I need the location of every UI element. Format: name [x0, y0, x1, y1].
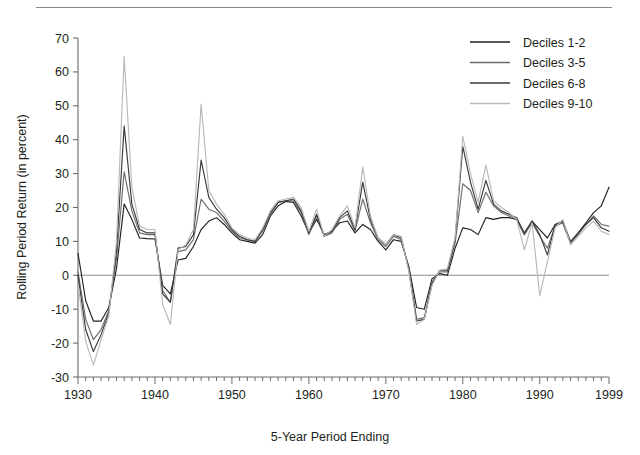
legend-label: Deciles 3-5 [523, 56, 586, 70]
y-tick-label: -30 [51, 371, 69, 385]
x-tick-label: 1980 [449, 388, 477, 402]
x-axis-title: 5-Year Period Ending [271, 430, 389, 444]
x-tick-label: 1940 [141, 388, 169, 402]
legend-label: Deciles 6-8 [523, 77, 586, 91]
y-tick-label: 10 [55, 235, 69, 249]
y-axis-title: Rolling Period Return (in percent) [15, 114, 29, 300]
series-line [78, 126, 609, 351]
y-tick-label: 30 [55, 167, 69, 181]
y-tick-label: 60 [55, 65, 69, 79]
x-tick-label: 1990 [526, 388, 554, 402]
legend-label: Deciles 1-2 [523, 36, 586, 50]
y-tick-label: 50 [55, 99, 69, 113]
y-axis-ticks: -30-20-10010203040506070 [51, 32, 78, 385]
x-tick-label: 1930 [64, 388, 92, 402]
legend-label: Deciles 9-10 [523, 97, 593, 111]
line-chart: -30-20-10010203040506070 193019401950196… [0, 0, 640, 455]
x-tick-label: 1999 [595, 388, 623, 402]
y-tick-label: 70 [55, 32, 69, 46]
y-tick-label: -20 [51, 337, 69, 351]
y-tick-label: -10 [51, 303, 69, 317]
y-tick-label: 20 [55, 201, 69, 215]
x-tick-label: 1970 [372, 388, 400, 402]
chart-figure: -30-20-10010203040506070 193019401950196… [0, 0, 640, 455]
x-tick-label: 1950 [218, 388, 246, 402]
x-tick-label: 1960 [295, 388, 323, 402]
y-tick-label: 0 [62, 269, 69, 283]
y-tick-label: 40 [55, 133, 69, 147]
x-axis-ticks: 19301940195019601970198019901999 [64, 377, 623, 402]
chart-legend: Deciles 1-2Deciles 3-5Deciles 6-8Deciles… [470, 36, 593, 112]
